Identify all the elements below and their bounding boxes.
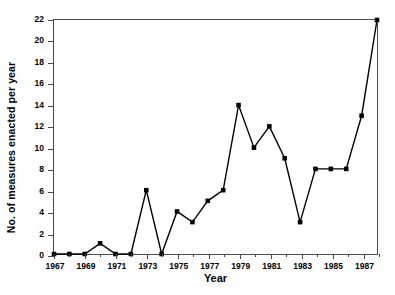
data-point-marker	[298, 220, 303, 225]
x-axis-tick: 1983	[302, 254, 303, 259]
x-axis-minor-tick	[131, 254, 132, 257]
x-axis-minor-tick	[162, 254, 163, 257]
data-point-marker	[252, 145, 257, 150]
y-axis-tick: 10	[48, 149, 54, 150]
x-axis-minor-tick	[379, 254, 380, 257]
line-chart-figure: No. of measures enacted per year 0246810…	[0, 0, 395, 295]
x-axis-tick-label: 1983	[293, 261, 312, 271]
y-axis-tick: 4	[48, 213, 54, 214]
x-axis-minor-tick	[255, 254, 256, 257]
data-point-marker	[329, 167, 334, 172]
y-axis-tick: 18	[48, 63, 54, 64]
y-axis-tick: 16	[48, 84, 54, 85]
plot-area: 0246810121416182022196719691971197319751…	[53, 19, 378, 255]
x-axis-tick: 1981	[271, 254, 272, 259]
x-axis-tick-label: 1987	[355, 261, 374, 271]
data-point-marker	[375, 18, 380, 23]
x-axis-minor-tick	[100, 254, 101, 257]
x-axis-minor-tick	[286, 254, 287, 257]
x-axis-tick-label: 1967	[46, 261, 65, 271]
y-axis-tick-label: 16	[35, 78, 44, 88]
data-point-marker	[144, 188, 149, 193]
data-point-marker	[344, 167, 349, 172]
y-axis-tick-label: 18	[35, 57, 44, 67]
x-axis-tick: 1987	[364, 254, 365, 259]
y-axis-tick-label: 2	[39, 229, 44, 239]
y-axis-tick: 8	[48, 170, 54, 171]
x-axis-tick: 1973	[147, 254, 148, 259]
data-point-marker	[282, 156, 287, 161]
y-axis-tick-label: 22	[35, 14, 44, 24]
data-point-marker	[313, 167, 318, 172]
x-axis-tick: 1977	[209, 254, 210, 259]
y-axis-tick-label: 20	[35, 35, 44, 45]
x-axis-minor-tick	[224, 254, 225, 257]
x-axis-tick-label: 1973	[138, 261, 157, 271]
data-point-marker	[221, 188, 226, 193]
data-point-marker	[359, 113, 364, 118]
y-axis-tick-label: 6	[39, 186, 44, 196]
y-axis-tick-label: 10	[35, 143, 44, 153]
x-axis-tick-label: 1985	[324, 261, 343, 271]
x-axis-tick-label: 1981	[262, 261, 281, 271]
x-axis-tick: 1975	[178, 254, 179, 259]
x-axis-minor-tick	[317, 254, 318, 257]
x-axis-tick-label: 1975	[169, 261, 188, 271]
y-axis-tick-label: 12	[35, 121, 44, 131]
x-axis-tick-label: 1977	[200, 261, 219, 271]
y-axis-tick: 6	[48, 192, 54, 193]
x-axis-tick-label: 1979	[231, 261, 250, 271]
data-point-marker	[98, 241, 103, 246]
data-point-marker	[190, 220, 195, 225]
y-axis-tick: 22	[48, 20, 54, 21]
data-series-line	[54, 20, 377, 254]
x-axis-tick: 1971	[116, 254, 117, 259]
y-axis-tick: 12	[48, 127, 54, 128]
data-point-marker	[175, 209, 180, 214]
y-axis-tick-label: 14	[35, 100, 44, 110]
x-axis-minor-tick	[348, 254, 349, 257]
y-axis-tick-label: 4	[39, 207, 44, 217]
x-axis-tick: 1967	[54, 254, 55, 259]
x-axis-tick-label: 1971	[107, 261, 126, 271]
x-axis-tick: 1979	[240, 254, 241, 259]
data-point-marker	[236, 103, 241, 108]
x-axis-tick: 1969	[85, 254, 86, 259]
series-polyline	[54, 20, 377, 254]
x-axis-tick-label: 1969	[76, 261, 95, 271]
x-axis-title: Year	[53, 272, 378, 284]
x-axis-minor-tick	[193, 254, 194, 257]
y-axis-title: No. of measures enacted per year	[0, 0, 22, 295]
y-axis-tick-label: 0	[39, 250, 44, 260]
x-axis-tick: 1985	[333, 254, 334, 259]
y-axis-tick: 2	[48, 235, 54, 236]
data-point-marker	[206, 199, 211, 204]
y-axis-tick-label: 8	[39, 164, 44, 174]
x-axis-minor-tick	[69, 254, 70, 257]
data-point-marker	[267, 124, 272, 129]
y-axis-tick: 14	[48, 106, 54, 107]
y-axis-tick: 20	[48, 41, 54, 42]
